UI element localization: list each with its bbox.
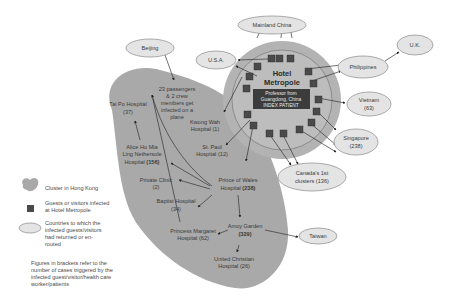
index-patient-line2: Guangdong, China xyxy=(261,97,302,102)
guest-square-icon xyxy=(250,122,257,129)
node-alice-ho-mia-ling-nethersole-hospital: Alice Ho Mia Ling Nethersole Hospital (1… xyxy=(122,144,161,165)
guest-square-icon xyxy=(296,126,303,133)
svg-text:Princess Margaret: Princess Margaret xyxy=(170,228,216,234)
country-usa: U.S.A. xyxy=(196,51,236,69)
guest-square-icon xyxy=(308,119,315,126)
cluster-legend-icon xyxy=(22,178,38,191)
index-patient-line1: Professor from xyxy=(265,91,296,96)
legend-countries-label: Countries to which the xyxy=(45,220,100,226)
svg-text:members get: members get xyxy=(161,100,194,106)
svg-text:Alice Ho Mia: Alice Ho Mia xyxy=(126,144,158,150)
guest-square-icon xyxy=(254,63,261,70)
guest-square-icon xyxy=(246,73,253,80)
country-ellipse-legend-icon xyxy=(19,223,41,233)
svg-text:Hospital (1): Hospital (1) xyxy=(191,126,220,132)
guest-square-icon xyxy=(280,130,287,137)
country-label: Taiwan xyxy=(309,233,326,239)
legend-note: Figures in brackets refer to the xyxy=(31,260,107,266)
svg-text:United Christian: United Christian xyxy=(214,256,254,262)
hotel-title-line2: Metropole xyxy=(264,78,300,87)
svg-text:Ling Nethersole: Ling Nethersole xyxy=(122,151,161,157)
country-beijing: Beijing xyxy=(126,39,174,57)
svg-text:Baptist Hospital: Baptist Hospital xyxy=(157,198,196,204)
guest-square-icon xyxy=(276,55,283,62)
svg-text:23 passengers: 23 passengers xyxy=(159,86,196,92)
legend-note: worker/patients xyxy=(30,281,69,287)
guest-square-icon xyxy=(315,96,322,103)
sars-spread-diagram: Hotel Metropole Professor from Guangdong… xyxy=(0,0,449,304)
guest-square-icon xyxy=(266,130,273,137)
guest-square-icon xyxy=(313,108,320,115)
node-kwong-wah-hospital: Kwong Wah Hospital (1) xyxy=(190,119,220,132)
svg-text:Amoy Garden: Amoy Garden xyxy=(228,223,263,229)
country-count: (63) xyxy=(364,105,374,111)
svg-text:plane: plane xyxy=(170,114,184,120)
country-taiwan: Taiwan xyxy=(299,228,337,244)
svg-text:Tai Po Hospital: Tai Po Hospital xyxy=(109,101,146,107)
legend-cluster-label: Cluster in Hong Kong xyxy=(45,185,98,191)
country-uk: U.K. xyxy=(397,35,433,55)
svg-text:infected on a: infected on a xyxy=(161,107,194,113)
legend-note: number of cases triggered by the xyxy=(31,267,113,273)
svg-text:St. Paul: St. Paul xyxy=(202,144,222,150)
legend: Cluster in Hong Kong Guests or visitors … xyxy=(19,178,113,287)
country-singapore: Singapore (238) xyxy=(334,129,378,155)
svg-text:Prince of Wales: Prince of Wales xyxy=(219,177,258,183)
guest-square-icon xyxy=(287,55,294,62)
svg-text:Hospital (156): Hospital (156) xyxy=(125,159,160,165)
country-canada: Canada's 1st clusters (136) xyxy=(278,163,346,191)
svg-text:& 2 crew: & 2 crew xyxy=(166,93,189,99)
svg-text:(34): (34) xyxy=(171,206,181,212)
guest-square-icon xyxy=(268,55,275,62)
country-vietnam: Vietnam (63) xyxy=(347,92,391,116)
legend-countries-label: infected guests/visitors xyxy=(45,227,102,233)
svg-text:Hospital (238): Hospital (238) xyxy=(221,185,256,191)
country-count: (238) xyxy=(349,143,362,149)
guest-square-icon xyxy=(305,68,312,75)
legend-note: infected guest/visitor/health care xyxy=(31,274,111,280)
svg-text:Kwong Wah: Kwong Wah xyxy=(190,119,220,125)
country-label: U.K. xyxy=(410,42,421,48)
legend-countries-label: routed xyxy=(45,241,61,247)
svg-text:Private Clinic: Private Clinic xyxy=(140,177,173,183)
country-label: Beijing xyxy=(142,45,159,51)
index-patient-line3: INDEX PATIENT xyxy=(263,103,299,108)
country-label: Philippines xyxy=(349,64,376,70)
edge-philippines-uk xyxy=(385,52,399,61)
hotel-title-line1: Hotel xyxy=(273,69,292,78)
svg-text:(329): (329) xyxy=(238,231,251,237)
guest-square-legend-icon xyxy=(27,205,34,212)
node-united-christian-hospital: United Christian Hospital (26) xyxy=(214,256,254,269)
guest-square-icon xyxy=(243,85,250,92)
country-count: clusters (136) xyxy=(295,178,329,184)
country-label: Vietnam xyxy=(359,97,380,103)
svg-text:Hospital (26): Hospital (26) xyxy=(218,263,250,269)
svg-text:(2): (2) xyxy=(153,184,160,190)
country-mainland-china: Mainland China xyxy=(238,16,306,34)
svg-text:Hospital (62): Hospital (62) xyxy=(177,235,209,241)
svg-text:(37): (37) xyxy=(123,109,133,115)
country-label: U.S.A. xyxy=(208,57,225,63)
legend-countries-label: had returned or en- xyxy=(45,234,93,240)
country-philippines: Philippines xyxy=(338,56,388,78)
guest-square-icon xyxy=(244,111,251,118)
legend-guests-label: at Hotel Metropole xyxy=(45,207,91,213)
guest-square-icon xyxy=(310,80,317,87)
country-label: Canada's 1st xyxy=(296,170,329,176)
country-label: Mainland China xyxy=(253,22,293,28)
country-label: Singapore xyxy=(343,135,369,141)
legend-guests-label: Guests or visitors infected xyxy=(45,200,109,206)
svg-text:Hospital (12): Hospital (12) xyxy=(196,151,228,157)
